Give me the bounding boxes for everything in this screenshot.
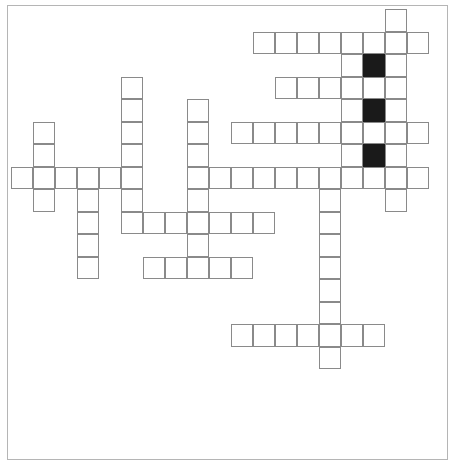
crossword-cell[interactable] (319, 212, 341, 235)
crossword-cell[interactable] (33, 144, 55, 167)
crossword-cell[interactable] (253, 122, 275, 145)
crossword-grid (0, 0, 451, 470)
crossword-cell[interactable] (319, 167, 341, 190)
crossword-cell[interactable] (363, 32, 385, 55)
crossword-cell[interactable] (275, 324, 297, 347)
crossword-cell[interactable] (341, 54, 363, 77)
crossword-cell[interactable] (341, 32, 363, 55)
crossword-cell[interactable] (363, 324, 385, 347)
crossword-cell[interactable] (55, 167, 77, 190)
crossword-cell[interactable] (143, 257, 165, 280)
crossword-cell[interactable] (385, 54, 407, 77)
crossword-cell[interactable] (77, 212, 99, 235)
crossword-cell[interactable] (341, 122, 363, 145)
crossword-cell[interactable] (385, 32, 407, 55)
crossword-cell[interactable] (407, 122, 429, 145)
crossword-cell[interactable] (275, 167, 297, 190)
crossword-cell[interactable] (385, 189, 407, 212)
crossword-cell[interactable] (319, 257, 341, 280)
crossword-cell[interactable] (11, 167, 33, 190)
block-cell (363, 144, 385, 167)
block-cell (363, 54, 385, 77)
crossword-cell[interactable] (165, 257, 187, 280)
crossword-cell[interactable] (297, 122, 319, 145)
crossword-cell[interactable] (187, 212, 209, 235)
crossword-cell[interactable] (341, 77, 363, 100)
crossword-cell[interactable] (165, 212, 187, 235)
crossword-cell[interactable] (33, 167, 55, 190)
crossword-cell[interactable] (121, 99, 143, 122)
crossword-cell[interactable] (363, 77, 385, 100)
crossword-cell[interactable] (385, 77, 407, 100)
crossword-cell[interactable] (253, 212, 275, 235)
crossword-cell[interactable] (187, 99, 209, 122)
crossword-cell[interactable] (209, 212, 231, 235)
crossword-cell[interactable] (99, 167, 121, 190)
crossword-cell[interactable] (385, 144, 407, 167)
crossword-cell[interactable] (319, 32, 341, 55)
crossword-cell[interactable] (385, 167, 407, 190)
crossword-cell[interactable] (319, 279, 341, 302)
crossword-cell[interactable] (121, 189, 143, 212)
crossword-cell[interactable] (319, 77, 341, 100)
crossword-cell[interactable] (121, 167, 143, 190)
crossword-cell[interactable] (253, 167, 275, 190)
crossword-cell[interactable] (121, 144, 143, 167)
crossword-cell[interactable] (407, 167, 429, 190)
crossword-cell[interactable] (363, 122, 385, 145)
crossword-cell[interactable] (385, 122, 407, 145)
crossword-cell[interactable] (253, 324, 275, 347)
crossword-cell[interactable] (209, 167, 231, 190)
crossword-cell[interactable] (77, 257, 99, 280)
crossword-cell[interactable] (231, 167, 253, 190)
crossword-cell[interactable] (187, 144, 209, 167)
crossword-cell[interactable] (319, 122, 341, 145)
crossword-cell[interactable] (187, 234, 209, 257)
crossword-cell[interactable] (209, 257, 231, 280)
crossword-cell[interactable] (297, 324, 319, 347)
crossword-cell[interactable] (275, 32, 297, 55)
crossword-cell[interactable] (121, 212, 143, 235)
crossword-cell[interactable] (77, 189, 99, 212)
crossword-cell[interactable] (275, 122, 297, 145)
crossword-cell[interactable] (121, 122, 143, 145)
crossword-cell[interactable] (319, 347, 341, 370)
crossword-cell[interactable] (363, 167, 385, 190)
crossword-cell[interactable] (297, 32, 319, 55)
crossword-cell[interactable] (319, 324, 341, 347)
crossword-cell[interactable] (253, 32, 275, 55)
crossword-cell[interactable] (33, 122, 55, 145)
crossword-cell[interactable] (407, 32, 429, 55)
crossword-cell[interactable] (231, 324, 253, 347)
crossword-cell[interactable] (231, 257, 253, 280)
crossword-cell[interactable] (341, 324, 363, 347)
crossword-cell[interactable] (275, 77, 297, 100)
crossword-cell[interactable] (33, 189, 55, 212)
crossword-cell[interactable] (341, 167, 363, 190)
crossword-cell[interactable] (121, 77, 143, 100)
crossword-cell[interactable] (77, 167, 99, 190)
crossword-cell[interactable] (231, 212, 253, 235)
crossword-cell[interactable] (319, 234, 341, 257)
block-cell (363, 99, 385, 122)
crossword-cell[interactable] (231, 122, 253, 145)
crossword-cell[interactable] (187, 257, 209, 280)
crossword-cell[interactable] (297, 167, 319, 190)
crossword-cell[interactable] (143, 212, 165, 235)
crossword-cell[interactable] (77, 234, 99, 257)
crossword-cell[interactable] (319, 189, 341, 212)
crossword-cell[interactable] (297, 77, 319, 100)
crossword-cell[interactable] (385, 99, 407, 122)
crossword-cell[interactable] (341, 144, 363, 167)
crossword-cell[interactable] (187, 122, 209, 145)
crossword-cell[interactable] (341, 99, 363, 122)
crossword-cell[interactable] (385, 9, 407, 32)
crossword-cell[interactable] (187, 189, 209, 212)
crossword-cell[interactable] (319, 302, 341, 325)
crossword-cell[interactable] (187, 167, 209, 190)
